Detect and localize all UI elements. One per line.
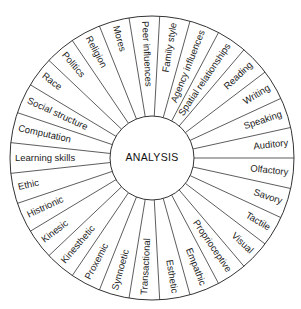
segment-label: Peer influences <box>140 21 155 87</box>
segment-label: Esthetic <box>164 259 180 294</box>
segment-label: Speaking <box>242 108 283 131</box>
segment-label: Histrionic <box>25 193 65 219</box>
segment-label: Learning skills <box>15 152 75 163</box>
segment-label: Reading <box>221 59 254 91</box>
segment-divider <box>154 200 159 300</box>
segment-label: Auditory <box>253 137 289 152</box>
segment-label: Mores <box>111 24 129 53</box>
segment-label: Race <box>40 70 64 92</box>
center-label: ANALYSIS <box>126 151 179 163</box>
segment-label: Family style <box>160 22 179 73</box>
segment-label: Computation <box>17 122 72 144</box>
segment-label: Empathic <box>184 246 209 287</box>
segment-label: Religion <box>84 34 110 69</box>
segment-label: Tactile <box>244 209 273 232</box>
segment-label: Olfactory <box>250 162 289 177</box>
segment-label: Writing <box>241 82 272 107</box>
segment-label: Ethic <box>17 177 40 192</box>
analysis-wheel-diagram: Peer influencesFamily styleAgency influe… <box>0 0 301 309</box>
segment-label: Synnoetic <box>109 248 131 291</box>
segment-divider <box>11 163 110 174</box>
segment-divider <box>154 16 159 116</box>
segment-label: Savory <box>252 186 284 206</box>
segment-label: Proxemic <box>82 241 110 281</box>
segment-label: Transactional <box>138 238 152 295</box>
